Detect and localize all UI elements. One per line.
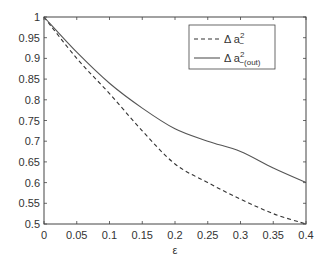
y-tick-label: 0.9 — [25, 52, 40, 64]
y-tick-label: 0.95 — [19, 32, 40, 44]
x-tick-label: 0.05 — [66, 229, 87, 241]
y-tick-label: 0.75 — [19, 115, 40, 127]
y-tick-label: 0.5 — [25, 218, 40, 230]
x-tick-label: 0.35 — [263, 229, 284, 241]
x-tick-label: 0.2 — [167, 229, 182, 241]
x-tick-label: 0.15 — [132, 229, 153, 241]
line-chart: 0.50.550.60.650.70.750.80.850.90.951 00.… — [0, 0, 328, 265]
legend: Δ a2−Δ a2−(out) — [189, 25, 275, 69]
y-tick-label: 0.8 — [25, 94, 40, 106]
x-tick-label: 0.1 — [102, 229, 117, 241]
x-tick-label: 0.25 — [197, 229, 218, 241]
y-tick-label: 0.6 — [25, 177, 40, 189]
x-axis-label: ε — [173, 244, 178, 256]
x-axis-tick-labels: 00.050.10.150.20.250.30.350.4 — [41, 229, 314, 241]
x-tick-label: 0 — [41, 229, 47, 241]
y-tick-label: 0.85 — [19, 73, 40, 85]
y-tick-label: 0.7 — [25, 135, 40, 147]
x-tick-label: 0.3 — [233, 229, 248, 241]
y-tick-label: 0.55 — [19, 197, 40, 209]
y-axis-tick-labels: 0.50.550.60.650.70.750.80.850.90.951 — [19, 11, 40, 230]
y-tick-label: 1 — [34, 11, 40, 23]
x-tick-label: 0.4 — [298, 229, 313, 241]
y-tick-label: 0.65 — [19, 156, 40, 168]
